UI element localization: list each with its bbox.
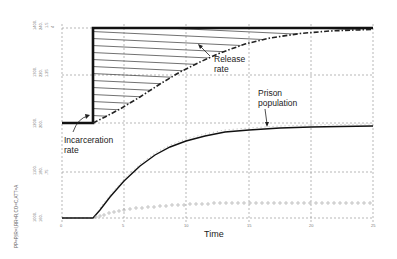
svg-text:25: 25	[371, 223, 376, 228]
prison-population-annotation: Prison population	[258, 88, 298, 127]
x-axis-ticks: 0 5 10 15 20 25	[60, 223, 376, 228]
svg-text:15: 15	[247, 223, 252, 228]
x-axis-label: Time	[204, 229, 224, 239]
svg-text:1200.: 1200.	[32, 118, 37, 128]
svg-text:20: 20	[309, 223, 314, 228]
incarceration-rate-label-2: rate	[64, 145, 79, 155]
svg-text:.75: .75	[44, 169, 49, 175]
svg-text:4: 4	[50, 25, 55, 28]
incarceration-rate-label-1: Incarceration	[64, 135, 113, 145]
svg-text:200.: 200.	[38, 120, 43, 128]
svg-text:180.: 180.	[38, 167, 43, 175]
svg-text:220.: 220.	[38, 69, 43, 77]
incarceration-rate-annotation: Incarceration rate	[64, 114, 113, 155]
svg-text:1100.: 1100.	[32, 165, 37, 175]
svg-text:160.: 160.	[38, 214, 43, 222]
svg-text:1.5: 1.5	[44, 22, 49, 28]
svg-text:240.: 240.	[38, 22, 43, 30]
svg-text:1300.: 1300.	[32, 67, 37, 77]
svg-text:0: 0	[60, 223, 63, 228]
prison-population-label-1: Prison	[258, 88, 282, 98]
svg-text:1400.: 1400.	[32, 20, 37, 30]
att-marker-series	[95, 202, 371, 218]
variable-legend: PP=P,IR=I,RR=R,CO=C,ATT=A	[14, 185, 19, 248]
release-rate-line	[93, 30, 373, 124]
system-dynamics-chart: Release rate Incarceration rate Prison p…	[0, 0, 397, 259]
release-rate-label-2: rate	[214, 64, 229, 74]
svg-text:1000.: 1000.	[32, 212, 37, 222]
release-rate-label-1: Release	[214, 54, 245, 64]
prison-population-label-2: population	[258, 98, 298, 108]
y-axis-ticks: 1400. 240. 1.5 4 1300. 220. 1.25 1200. 2…	[32, 20, 55, 222]
svg-text:5: 5	[122, 223, 125, 228]
incarceration-rate-line	[62, 28, 373, 123]
svg-text:1.25: 1.25	[44, 68, 49, 77]
svg-text:10: 10	[184, 223, 189, 228]
